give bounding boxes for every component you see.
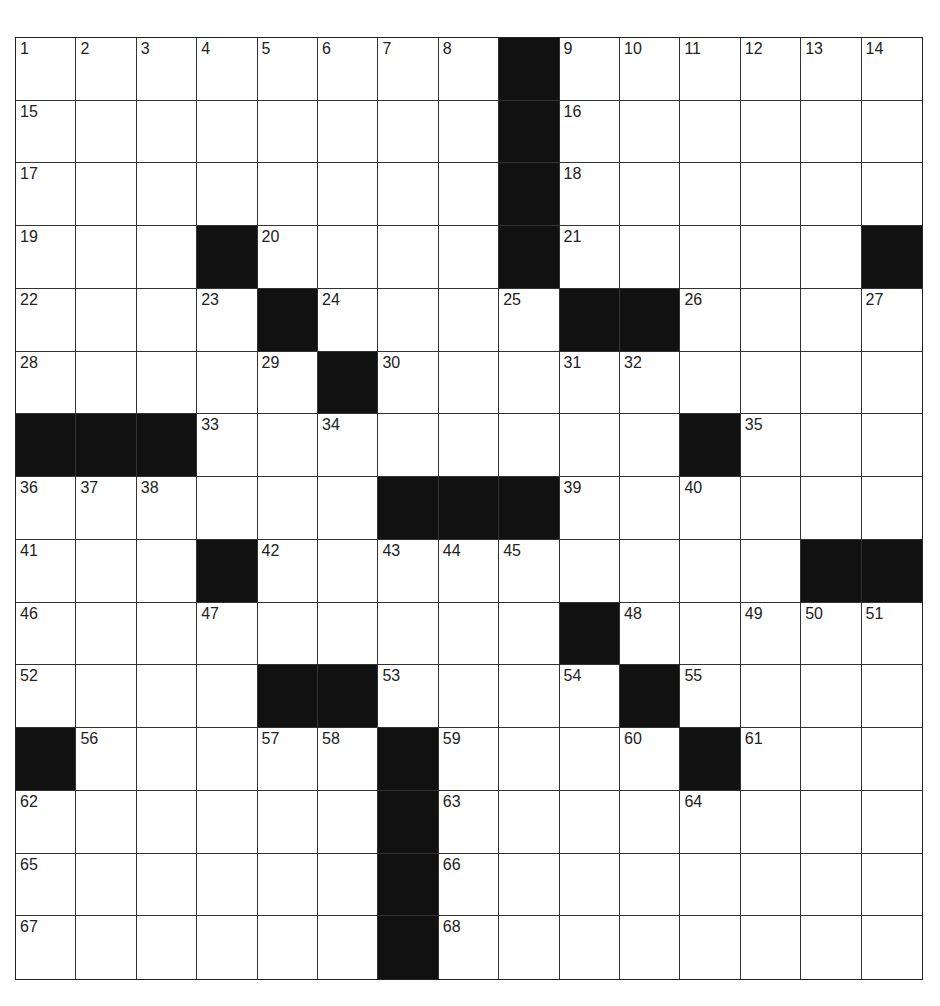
grid-cell[interactable]: [76, 540, 136, 603]
grid-cell[interactable]: [801, 728, 861, 791]
grid-cell[interactable]: 62: [16, 791, 76, 854]
grid-cell[interactable]: [801, 916, 861, 979]
grid-cell[interactable]: [862, 163, 922, 226]
grid-cell[interactable]: [620, 163, 680, 226]
grid-cell[interactable]: [801, 791, 861, 854]
grid-cell[interactable]: 63: [439, 791, 499, 854]
grid-cell[interactable]: [258, 163, 318, 226]
grid-cell[interactable]: [258, 414, 318, 477]
grid-cell[interactable]: 3: [137, 38, 197, 101]
grid-cell[interactable]: 12: [741, 38, 801, 101]
grid-cell[interactable]: [378, 414, 438, 477]
grid-cell[interactable]: [197, 854, 257, 917]
grid-cell[interactable]: [439, 101, 499, 164]
grid-cell[interactable]: [801, 477, 861, 540]
grid-cell[interactable]: 57: [258, 728, 318, 791]
grid-cell[interactable]: 30: [378, 352, 438, 415]
grid-cell[interactable]: [801, 665, 861, 728]
grid-cell[interactable]: 4: [197, 38, 257, 101]
grid-cell[interactable]: [560, 791, 620, 854]
grid-cell[interactable]: [137, 728, 197, 791]
grid-cell[interactable]: 59: [439, 728, 499, 791]
grid-cell[interactable]: [741, 101, 801, 164]
grid-cell[interactable]: 23: [197, 289, 257, 352]
grid-cell[interactable]: [378, 226, 438, 289]
grid-cell[interactable]: 44: [439, 540, 499, 603]
grid-cell[interactable]: 16: [560, 101, 620, 164]
grid-cell[interactable]: [197, 665, 257, 728]
grid-cell[interactable]: [137, 665, 197, 728]
grid-cell[interactable]: 37: [76, 477, 136, 540]
grid-cell[interactable]: [378, 101, 438, 164]
grid-cell[interactable]: [741, 540, 801, 603]
grid-cell[interactable]: [137, 352, 197, 415]
grid-cell[interactable]: 53: [378, 665, 438, 728]
grid-cell[interactable]: [137, 791, 197, 854]
grid-cell[interactable]: [439, 603, 499, 666]
grid-cell[interactable]: [197, 728, 257, 791]
grid-cell[interactable]: [560, 916, 620, 979]
grid-cell[interactable]: 67: [16, 916, 76, 979]
grid-cell[interactable]: 11: [680, 38, 740, 101]
grid-cell[interactable]: 1: [16, 38, 76, 101]
grid-cell[interactable]: 5: [258, 38, 318, 101]
grid-cell[interactable]: [560, 854, 620, 917]
grid-cell[interactable]: [439, 289, 499, 352]
grid-cell[interactable]: [378, 603, 438, 666]
grid-cell[interactable]: [499, 665, 559, 728]
grid-cell[interactable]: [137, 163, 197, 226]
grid-cell[interactable]: 32: [620, 352, 680, 415]
grid-cell[interactable]: [499, 728, 559, 791]
grid-cell[interactable]: 31: [560, 352, 620, 415]
grid-cell[interactable]: [741, 226, 801, 289]
grid-cell[interactable]: [197, 352, 257, 415]
grid-cell[interactable]: [620, 414, 680, 477]
grid-cell[interactable]: [76, 854, 136, 917]
grid-cell[interactable]: [801, 101, 861, 164]
grid-cell[interactable]: [318, 540, 378, 603]
grid-cell[interactable]: [258, 854, 318, 917]
grid-cell[interactable]: [499, 791, 559, 854]
grid-cell[interactable]: 56: [76, 728, 136, 791]
grid-cell[interactable]: 25: [499, 289, 559, 352]
grid-cell[interactable]: 60: [620, 728, 680, 791]
grid-cell[interactable]: [258, 603, 318, 666]
grid-cell[interactable]: [620, 916, 680, 979]
grid-cell[interactable]: [499, 352, 559, 415]
grid-cell[interactable]: [318, 854, 378, 917]
grid-cell[interactable]: [197, 163, 257, 226]
grid-cell[interactable]: [680, 226, 740, 289]
grid-cell[interactable]: [378, 289, 438, 352]
grid-cell[interactable]: [137, 101, 197, 164]
grid-cell[interactable]: [499, 603, 559, 666]
grid-cell[interactable]: [439, 226, 499, 289]
grid-cell[interactable]: [741, 665, 801, 728]
grid-cell[interactable]: 22: [16, 289, 76, 352]
grid-cell[interactable]: [741, 854, 801, 917]
grid-cell[interactable]: 41: [16, 540, 76, 603]
grid-cell[interactable]: 51: [862, 603, 922, 666]
grid-cell[interactable]: [680, 352, 740, 415]
grid-cell[interactable]: [560, 540, 620, 603]
grid-cell[interactable]: 7: [378, 38, 438, 101]
grid-cell[interactable]: [680, 101, 740, 164]
grid-cell[interactable]: 58: [318, 728, 378, 791]
grid-cell[interactable]: [862, 791, 922, 854]
grid-cell[interactable]: [680, 916, 740, 979]
grid-cell[interactable]: [620, 540, 680, 603]
grid-cell[interactable]: [620, 854, 680, 917]
grid-cell[interactable]: [258, 791, 318, 854]
grid-cell[interactable]: 46: [16, 603, 76, 666]
grid-cell[interactable]: [76, 791, 136, 854]
grid-cell[interactable]: [560, 728, 620, 791]
grid-cell[interactable]: 17: [16, 163, 76, 226]
grid-cell[interactable]: [862, 352, 922, 415]
grid-cell[interactable]: 61: [741, 728, 801, 791]
grid-cell[interactable]: 68: [439, 916, 499, 979]
grid-cell[interactable]: 45: [499, 540, 559, 603]
grid-cell[interactable]: 15: [16, 101, 76, 164]
grid-cell[interactable]: [76, 226, 136, 289]
grid-cell[interactable]: 13: [801, 38, 861, 101]
grid-cell[interactable]: [76, 352, 136, 415]
grid-cell[interactable]: [318, 163, 378, 226]
